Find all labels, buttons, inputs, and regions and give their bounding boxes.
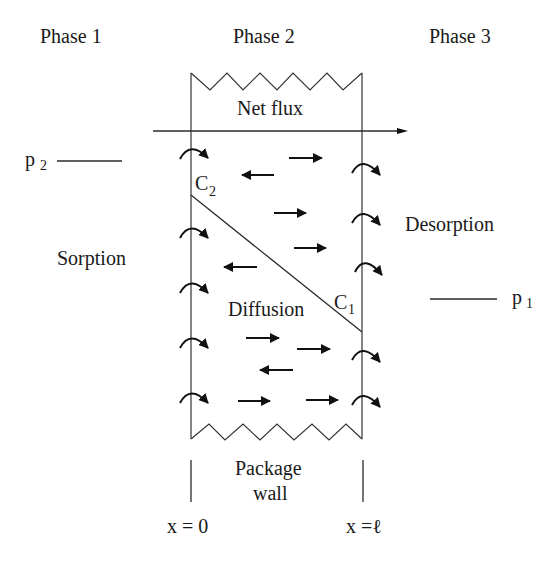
- curved-arrow-icon: [180, 339, 208, 349]
- xl-label: x =ℓ: [346, 515, 382, 537]
- pressure-p2: p 2: [25, 148, 122, 173]
- c1-symbol: C: [334, 291, 347, 313]
- desorption-label: Desorption: [405, 213, 494, 236]
- desorption-arrows: [352, 164, 382, 407]
- curved-arrow-icon: [180, 149, 208, 159]
- c2-subscript: 2: [209, 184, 216, 199]
- curved-arrow-icon: [180, 229, 208, 239]
- diffusion-label: Diffusion: [228, 298, 304, 320]
- net-flux-label: Net flux: [237, 97, 303, 119]
- p1-subscript: 1: [526, 296, 533, 311]
- curved-arrow-icon: [180, 284, 208, 294]
- curved-arrow-icon: [352, 396, 380, 407]
- package-wall: [191, 73, 362, 440]
- curved-arrow-icon: [352, 214, 380, 225]
- sorption-label: Sorption: [57, 247, 126, 270]
- p1-symbol: p: [512, 286, 522, 309]
- phase-3-label: Phase 3: [429, 25, 491, 47]
- net-flux-arrowhead-icon: [397, 128, 408, 134]
- c2-symbol: C: [195, 172, 208, 194]
- p2-subscript: 2: [40, 158, 47, 173]
- package-label: Package: [235, 457, 302, 480]
- x0-label: x = 0: [167, 515, 208, 537]
- curved-arrow-icon: [352, 351, 380, 362]
- p2-symbol: p: [25, 148, 35, 171]
- membrane-permeation-diagram: Phase 1 Phase 2 Phase 3 Net flux p 2 p 1…: [0, 0, 553, 563]
- concentration-c2: C 2: [195, 172, 216, 199]
- phase-2-label: Phase 2: [233, 25, 295, 47]
- curved-arrow-icon: [180, 394, 208, 404]
- c1-subscript: 1: [348, 302, 355, 317]
- pressure-p1: p 1: [430, 286, 533, 311]
- wall-top-zigzag: [191, 73, 362, 90]
- curved-arrow-icon: [355, 263, 382, 275]
- diffusion-arrows: [224, 158, 338, 401]
- curved-arrow-icon: [352, 164, 380, 175]
- concentration-c1: C 1: [334, 291, 355, 317]
- phase-1-label: Phase 1: [40, 25, 102, 47]
- wall-label: wall: [253, 482, 288, 504]
- wall-bottom-zigzag: [191, 424, 362, 440]
